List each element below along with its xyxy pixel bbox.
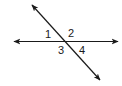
angle-label-1: 1 xyxy=(45,28,51,40)
transversal-line xyxy=(32,5,100,80)
angle-label-3: 3 xyxy=(58,44,64,56)
angle-label-4: 4 xyxy=(79,44,85,56)
angle-label-2: 2 xyxy=(68,27,74,39)
angle-diagram: 1 2 3 4 xyxy=(0,0,122,86)
